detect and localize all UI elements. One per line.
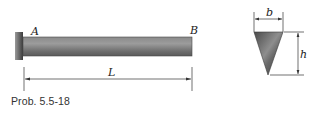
label-b: B: [189, 24, 198, 37]
label-b-width: b: [266, 6, 273, 19]
label-l: L: [107, 66, 115, 79]
label-a: A: [30, 25, 39, 38]
label-h: h: [300, 48, 307, 61]
fixed-support-wall: [15, 32, 23, 60]
beam: [23, 37, 192, 56]
length-dimension: L: [24, 66, 192, 91]
figure-caption: Prob. 5.5-18: [11, 95, 70, 107]
triangular-cross-section: [254, 32, 283, 75]
width-dimension: b: [254, 6, 283, 32]
